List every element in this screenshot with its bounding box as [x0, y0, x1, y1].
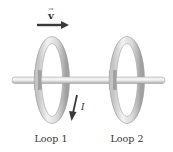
svg-text:→: → — [48, 5, 53, 12]
two-loops-diagram: v → I Loop 1 Loop 2 — [0, 0, 173, 152]
current-arrow-icon — [69, 95, 77, 121]
loop-1-front — [34, 70, 41, 90]
loop-2-label: Loop 2 — [111, 133, 144, 144]
velocity-arrow-icon — [37, 21, 69, 29]
loop-1-label: Loop 1 — [35, 133, 68, 144]
velocity-label: v → — [47, 5, 55, 21]
loop-2-front — [109, 70, 116, 90]
current-label: I — [80, 102, 85, 112]
